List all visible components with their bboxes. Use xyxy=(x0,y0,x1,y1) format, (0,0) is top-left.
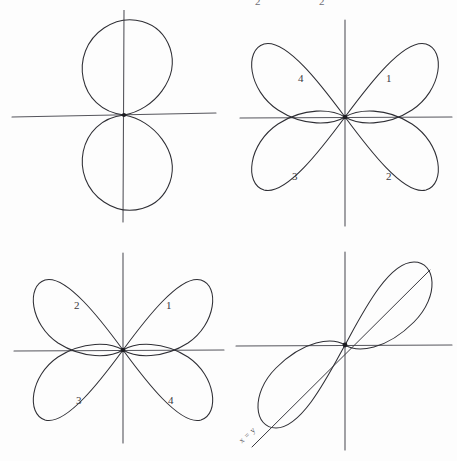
rose-petal-lower-left xyxy=(258,341,345,428)
top-edge-note-1: 2 xyxy=(255,0,261,7)
panel-bottom-left: 2 1 3 4 xyxy=(0,240,228,461)
panel-bottom-right: x = y xyxy=(228,240,457,461)
rose-petal-up xyxy=(82,20,172,115)
figure-canvas: 4 1 3 2 2 1 3 4 x = y 2 2 xyxy=(0,0,457,461)
petal-label-upper-left: 4 xyxy=(298,72,304,84)
origin-point xyxy=(121,348,126,353)
rose-petal-q3 xyxy=(252,111,345,190)
panel-top-right: 4 1 3 2 xyxy=(228,10,457,235)
rose-petal-q4 xyxy=(345,111,438,190)
petal-label-lower-right: 2 xyxy=(386,170,392,182)
x-axis xyxy=(12,113,216,117)
petal-label-lower-right: 4 xyxy=(168,394,174,406)
x-axis xyxy=(14,350,224,351)
rose-petal-q4 xyxy=(123,344,213,420)
identity-line[interactable] xyxy=(252,270,430,447)
panel-top-right-plot xyxy=(228,10,457,235)
rose-petal-down xyxy=(82,115,172,210)
rose-petal-q2 xyxy=(33,279,123,355)
rose-petal-q3 xyxy=(33,344,123,420)
petal-label-upper-left: 2 xyxy=(74,299,80,311)
origin-point xyxy=(343,115,348,120)
rose-petal-q1 xyxy=(345,43,438,122)
petal-label-upper-right: 1 xyxy=(386,72,392,84)
origin-point xyxy=(122,113,126,117)
panel-bottom-left-plot xyxy=(0,240,228,461)
petal-label-lower-left: 3 xyxy=(292,170,298,182)
panel-top-left xyxy=(0,10,228,235)
origin-point xyxy=(343,343,348,348)
top-edge-note-2: 2 xyxy=(319,0,325,7)
petal-label-upper-right: 1 xyxy=(166,299,172,311)
rose-petal-q1 xyxy=(123,279,213,355)
petal-label-lower-left: 3 xyxy=(76,394,82,406)
rose-petal-upper-right xyxy=(345,262,432,349)
panel-top-left-plot xyxy=(0,10,228,235)
panel-bottom-right-plot xyxy=(228,240,457,461)
